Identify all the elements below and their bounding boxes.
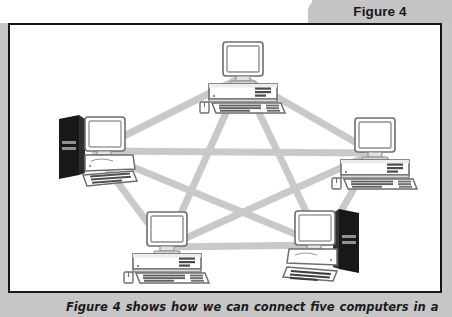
figure-caption: Figure 4 shows how we can connect five c…	[8, 298, 442, 317]
figure-number-label: Figure 4	[353, 5, 406, 19]
figure-frame	[8, 23, 442, 293]
network-diagram	[10, 25, 440, 291]
figure-caption-text: Figure 4 shows how we can connect five c…	[8, 298, 442, 317]
figure-page: Figure 4	[0, 0, 452, 317]
figure-number-tab: Figure 4	[308, 0, 452, 23]
computer-top-icon	[200, 42, 285, 113]
tab-strip-white-background	[0, 0, 312, 23]
link-left-right	[94, 151, 374, 153]
